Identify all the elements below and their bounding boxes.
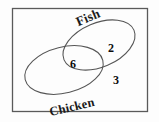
venn-diagram-figure: Fish Chicken 6 2 3 [0,0,159,122]
outside-sets-count: 3 [113,74,119,86]
intersection-count: 6 [70,58,76,70]
fish-only-count: 2 [108,42,114,54]
